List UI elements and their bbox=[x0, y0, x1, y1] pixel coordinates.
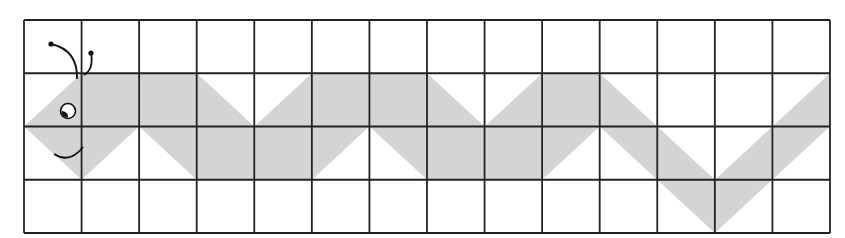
antenna-left-tip-icon bbox=[48, 41, 53, 46]
figure: Caterpillar on a grid bbox=[0, 0, 845, 238]
eye-icon bbox=[61, 104, 76, 119]
caterpillar-diagram bbox=[0, 0, 845, 238]
antenna-right bbox=[84, 53, 92, 75]
antenna-right-tip-icon bbox=[88, 50, 93, 55]
